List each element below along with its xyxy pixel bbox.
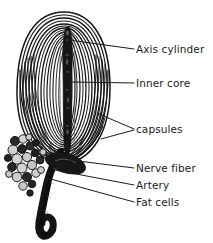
pacinian-corpuscle-figure: Axis cylinder Inner core capsules Nerve … bbox=[0, 0, 213, 243]
label-fat-cells: Fat cells bbox=[136, 197, 179, 208]
label-inner-core: Inner core bbox=[136, 78, 190, 89]
label-nerve-fiber: Nerve fiber bbox=[136, 163, 196, 174]
diagram-canvas bbox=[0, 0, 213, 243]
axis-cylinder-shape bbox=[63, 27, 72, 157]
label-axis-cylinder: Axis cylinder bbox=[136, 44, 204, 55]
label-artery: Artery bbox=[136, 180, 169, 191]
label-capsules: capsules bbox=[136, 124, 183, 135]
